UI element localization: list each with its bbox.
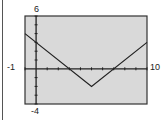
xmax-label: 10 <box>150 63 160 72</box>
xmin-label: -1 <box>7 63 15 72</box>
graph-window <box>0 0 165 120</box>
plot-frame <box>25 16 147 104</box>
ymax-label: 6 <box>34 5 39 14</box>
ymin-label: -4 <box>31 107 39 116</box>
